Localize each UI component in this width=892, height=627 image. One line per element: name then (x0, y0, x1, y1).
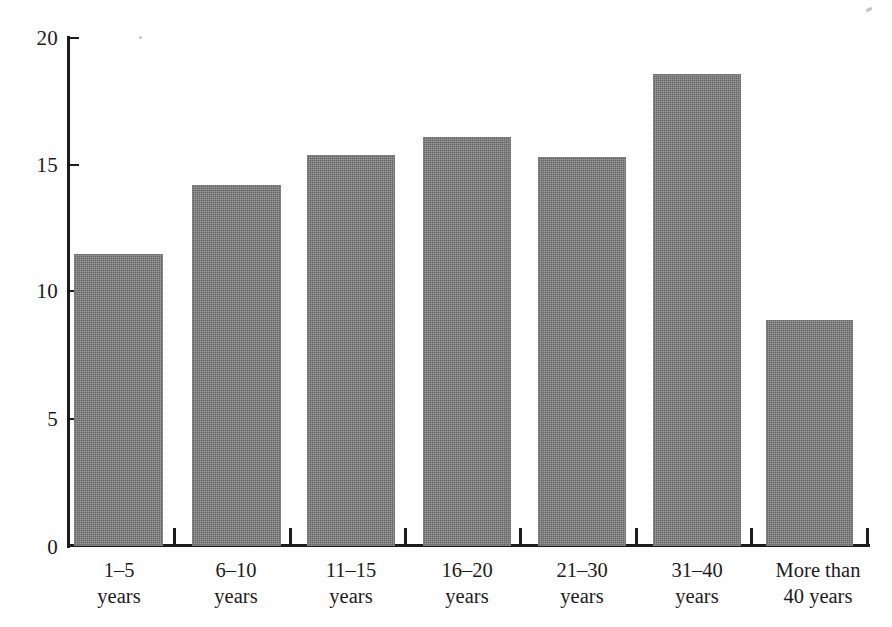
x-tick-6 (750, 528, 753, 545)
scan-artifact-dot (139, 36, 142, 39)
x-label-21-30-years: 21–30 years (522, 557, 642, 609)
y-tick-label-5: 5 (0, 409, 58, 430)
x-tick-4 (519, 528, 522, 545)
x-label-1-5-years: 1–5 years (59, 557, 179, 609)
x-label-line2: years (407, 583, 527, 609)
y-tick-label-15: 15 (0, 155, 58, 176)
bar-11-15-years (307, 155, 395, 546)
x-label-line1: 11–15 (291, 557, 411, 583)
x-label-line2: 40 years (749, 583, 887, 609)
y-axis-tick-labels: 20 15 10 5 0 (0, 0, 58, 627)
bar-16-20-years (423, 137, 511, 546)
x-label-31-40-years: 31–40 years (637, 557, 757, 609)
x-tick-3 (404, 528, 407, 545)
x-label-16-20-years: 16–20 years (407, 557, 527, 609)
x-label-line1: 21–30 (522, 557, 642, 583)
x-label-11-15-years: 11–15 years (291, 557, 411, 609)
bar-31-40-years (653, 74, 741, 546)
x-label-line1: 16–20 (407, 557, 527, 583)
bar-more-than-40-years (766, 320, 853, 546)
bar-21-30-years (538, 157, 626, 546)
x-label-line1: More than (749, 557, 887, 583)
y-tick-label-0: 0 (0, 537, 58, 558)
y-tick-20 (68, 37, 79, 40)
bar-6-10-years (192, 185, 281, 546)
x-axis-end-tick (866, 528, 869, 545)
x-tick-5 (635, 528, 638, 545)
y-tick-15 (68, 164, 79, 167)
x-label-more-than-40-years: More than 40 years (749, 557, 887, 609)
x-label-6-10-years: 6–10 years (176, 557, 296, 609)
y-axis-line (67, 36, 70, 548)
x-label-line2: years (176, 583, 296, 609)
x-label-line2: years (59, 583, 179, 609)
scan-artifact-speck (866, 7, 873, 12)
x-label-line1: 1–5 (59, 557, 179, 583)
y-tick-label-10: 10 (0, 281, 58, 302)
x-label-line2: years (291, 583, 411, 609)
bar-1-5-years (74, 254, 163, 546)
bar-chart-figure: 20 15 10 5 0 1–5 years 6–10 years 11–15 … (0, 0, 892, 627)
x-tick-2 (289, 528, 292, 545)
x-label-line1: 6–10 (176, 557, 296, 583)
x-tick-1 (173, 528, 176, 545)
y-tick-label-20: 20 (0, 28, 58, 49)
x-label-line2: years (522, 583, 642, 609)
x-label-line2: years (637, 583, 757, 609)
x-label-line1: 31–40 (637, 557, 757, 583)
